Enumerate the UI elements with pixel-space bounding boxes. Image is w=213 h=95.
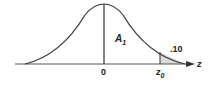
critical-value-label: z0 xyxy=(155,67,165,79)
normal-distribution-diagram: 0 A1 .10 z0 z xyxy=(0,0,213,95)
center-tick-label: 0 xyxy=(101,67,106,77)
tail-area-label: .10 xyxy=(170,44,183,54)
bell-curve xyxy=(25,4,185,64)
axis-arrow-icon xyxy=(186,61,195,67)
area-label: A1 xyxy=(114,33,126,46)
axis-label: z xyxy=(196,59,202,69)
